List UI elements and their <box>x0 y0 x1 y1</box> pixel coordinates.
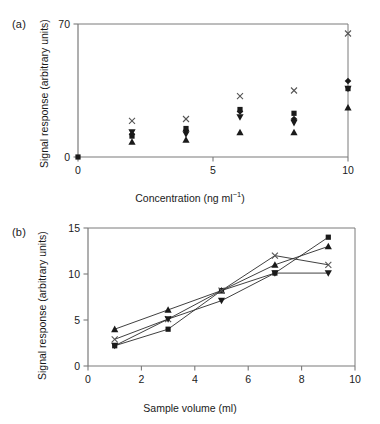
data-point-triangle-up <box>271 261 278 268</box>
origin-point <box>75 154 80 159</box>
x-tick-label: 8 <box>299 373 305 385</box>
data-point-triangle-down <box>218 298 225 305</box>
data-point-triangle-up <box>165 306 172 313</box>
data-point-square <box>326 235 331 240</box>
data-point-triangle-up <box>236 129 243 136</box>
panel-b-plot: 0246810051015 <box>0 212 380 424</box>
data-point-triangle-up <box>290 129 297 136</box>
data-point-triangle-up <box>325 243 332 250</box>
data-point-diamond <box>345 78 352 85</box>
y-tick-label: 5 <box>74 314 80 326</box>
x-tick-label: 2 <box>138 373 144 385</box>
data-point-cross <box>237 93 243 99</box>
y-tick-label: 0 <box>74 360 80 372</box>
x-tick-label: 0 <box>85 373 91 385</box>
y-tick-label: 10 <box>68 268 80 280</box>
series-line-cross <box>115 256 329 340</box>
x-tick-label: 6 <box>245 373 251 385</box>
data-point-triangle-up <box>344 104 351 111</box>
data-point-triangle-up <box>182 136 189 143</box>
figure-container: (a) Signal response (arbitrary units) Co… <box>0 0 380 424</box>
x-tick-label: 10 <box>349 373 361 385</box>
data-point-square <box>291 111 296 116</box>
x-tick-label: 10 <box>342 164 354 176</box>
panel-b: (b) Signal response (arbitrary units) Sa… <box>0 212 380 424</box>
data-point-triangle-up <box>111 326 118 333</box>
x-tick-label: 0 <box>75 164 81 176</box>
data-point-cross <box>129 118 135 124</box>
data-point-triangle-up <box>128 138 135 145</box>
data-point-square <box>166 327 171 332</box>
data-point-triangle-down <box>236 114 243 121</box>
panel-a: (a) Signal response (arbitrary units) Co… <box>0 0 380 212</box>
data-point-cross <box>112 336 118 342</box>
data-point-cross <box>183 116 189 122</box>
y-tick-label: 15 <box>68 222 80 234</box>
y-tick-label: 70 <box>58 18 70 30</box>
panel-a-plot: 0510070 <box>0 0 380 212</box>
data-point-triangle-down <box>290 120 297 127</box>
y-tick-label: 0 <box>64 151 70 163</box>
series-line-triangle-down <box>115 273 329 346</box>
x-tick-label: 5 <box>210 164 216 176</box>
data-point-cross <box>291 88 297 94</box>
x-tick-label: 4 <box>192 373 198 385</box>
